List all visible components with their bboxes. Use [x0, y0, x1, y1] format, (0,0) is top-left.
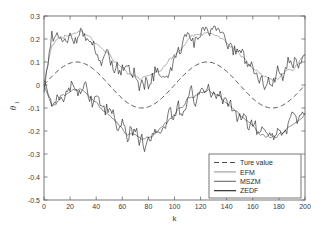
legend-label-mszm: MSZM [240, 178, 261, 185]
x-tick-label: 80 [145, 203, 153, 210]
y-tick-label: -0.4 [28, 174, 40, 181]
y-tick-label: 0.1 [30, 59, 40, 66]
x-tick-label: 20 [66, 203, 74, 210]
y-tick-label: 0 [36, 82, 40, 89]
y-tick-label: -0.5 [28, 197, 40, 204]
y-tick-label: -0.1 [28, 105, 40, 112]
y-tick-label: 0.2 [30, 36, 40, 43]
x-tick-label: 40 [92, 203, 100, 210]
legend-label-efm: EFM [240, 169, 255, 176]
chart-svg: 020406080100120140160180200-0.5-0.4-0.3-… [0, 0, 324, 243]
y-tick-label: -0.3 [28, 151, 40, 158]
x-tick-label: 160 [247, 203, 259, 210]
x-tick-label: 180 [273, 203, 285, 210]
legend-label-ture-value: Ture value [240, 159, 273, 166]
legend[interactable]: Ture valueEFMMSZMZEDF [209, 154, 301, 198]
y-axis-title-subscript: 1 [14, 101, 20, 104]
y-tick-label: -0.2 [28, 128, 40, 135]
x-tick-label: 140 [221, 203, 233, 210]
legend-label-zedf: ZEDF [240, 187, 258, 194]
x-tick-label: 120 [195, 203, 207, 210]
y-tick-label: 0.3 [30, 13, 40, 20]
x-axis-title: k [173, 214, 178, 223]
y-axis-title-theta: θ [8, 105, 18, 110]
x-tick-label: 60 [118, 203, 126, 210]
x-tick-label: 0 [42, 203, 46, 210]
x-tick-label: 100 [169, 203, 181, 210]
y-axis-title: θ1 [8, 101, 20, 110]
figure-canvas: 020406080100120140160180200-0.5-0.4-0.3-… [0, 0, 324, 243]
x-tick-label: 200 [299, 203, 311, 210]
